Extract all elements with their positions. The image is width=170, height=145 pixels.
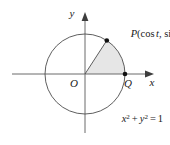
equation-equals: = (150, 113, 156, 124)
x-axis-label: x (149, 76, 155, 88)
y-axis-label: y (69, 7, 75, 19)
shaded-sector (85, 40, 125, 74)
unit-circle-svg: y x O Q P(cost, sint) x2+y2=1 (0, 0, 170, 145)
svg-text:P(cost, sint): P(cost, sint) (107, 28, 170, 40)
equation-value: 1 (158, 113, 163, 124)
y-axis-arrowhead (82, 12, 89, 21)
svg-text:x2+y2=1: x2+y2=1 (98, 113, 170, 125)
point-p-label-sin: sin (164, 28, 170, 39)
unit-circle-figure: y x O Q P(cost, sint) x2+y2=1 (0, 0, 170, 145)
point-q-marker (123, 72, 128, 77)
point-q-label: Q (124, 77, 132, 89)
equation-x-exponent: 2 (126, 113, 130, 121)
circle-equation: x2+y2=1 (98, 113, 170, 125)
equation-plus: + (132, 113, 138, 124)
point-p-label: P(cost, sint) (107, 28, 170, 40)
origin-label: O (70, 77, 78, 89)
equation-y-exponent: 2 (144, 113, 148, 121)
point-p-label-cos: cos (141, 28, 155, 39)
